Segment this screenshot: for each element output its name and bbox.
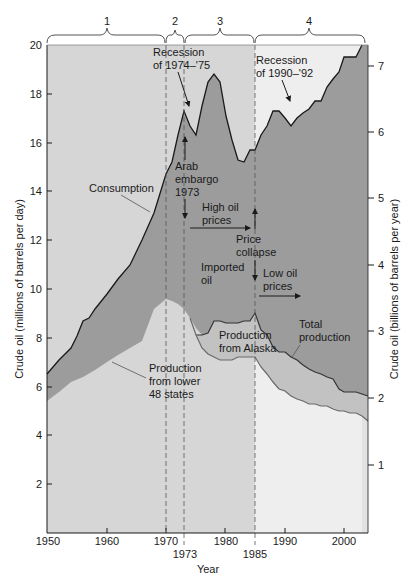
price-collapse-label-2: collapse xyxy=(236,246,276,258)
y-right-tick-7: 7 xyxy=(378,60,384,72)
y-right-tick-3: 3 xyxy=(378,325,384,337)
arab-embargo-label-3: 1973 xyxy=(175,186,199,198)
price-collapse-label: Price xyxy=(236,233,261,245)
lower48-production-label: Production xyxy=(149,362,202,374)
alaska-production-label-2: from Alaska xyxy=(219,342,277,354)
period-2-brace xyxy=(166,30,184,43)
y-right-tick-6: 6 xyxy=(378,126,384,138)
period-4-brace xyxy=(255,28,365,43)
high-oil-prices-label-2: prices xyxy=(202,214,232,226)
arab-embargo-label: Arab xyxy=(175,160,198,172)
y-tick-2: 2 xyxy=(36,478,42,490)
recession-1990-label: Recession xyxy=(256,54,307,66)
x-tick-1990: 1990 xyxy=(273,535,297,547)
x-tick-1973: 1973 xyxy=(173,548,197,560)
period-1-brace xyxy=(47,28,165,43)
y-right-tick-4: 4 xyxy=(378,259,384,271)
high-oil-prices-label: High oil xyxy=(202,201,239,213)
alaska-production-label: Production xyxy=(219,329,272,341)
total-production-label-2: production xyxy=(299,331,350,343)
y-axis-label-right: Crude oil (billions of barrels per year) xyxy=(388,199,400,379)
y-tick-20: 20 xyxy=(30,39,42,51)
period-3-label: 3 xyxy=(217,15,223,27)
period-2-label: 2 xyxy=(172,15,178,27)
x-tick-1950: 1950 xyxy=(36,535,60,547)
arab-embargo-label-2: embargo xyxy=(175,173,218,185)
recession-1974-label-2: of 1974–'75 xyxy=(153,59,210,71)
imported-oil-label-2: oil xyxy=(201,274,212,286)
y-tick-8: 8 xyxy=(36,332,42,344)
period-3-brace xyxy=(185,28,254,43)
imported-oil-label: Imported xyxy=(201,261,244,273)
period-1-label: 1 xyxy=(104,15,110,27)
y-tick-14: 14 xyxy=(30,185,42,197)
y-tick-12: 12 xyxy=(30,234,42,246)
recession-1990-label-2: of 1990–'92 xyxy=(256,67,313,79)
y-right-tick-1: 1 xyxy=(378,459,384,471)
y-axis-label-left: Crude oil (millions of barrels per day) xyxy=(13,199,25,379)
lower48-production-label-2: from lower xyxy=(149,375,201,387)
consumption-label: Consumption xyxy=(89,182,154,194)
low-oil-prices-label: Low oil xyxy=(263,267,297,279)
lower48-production-label-3: 48 states xyxy=(149,388,194,400)
total-production-label: Total xyxy=(299,318,322,330)
y-tick-18: 18 xyxy=(30,88,42,100)
y-tick-16: 16 xyxy=(30,137,42,149)
y-right-tick-5: 5 xyxy=(378,192,384,204)
low-oil-prices-label-2: prices xyxy=(263,280,293,292)
recession-1974-label: Recession xyxy=(153,46,204,58)
y-tick-4: 4 xyxy=(36,429,42,441)
x-tick-2000: 2000 xyxy=(332,535,356,547)
x-tick-1985: 1985 xyxy=(243,548,267,560)
period-4-label: 4 xyxy=(306,15,312,27)
x-tick-1970: 1970 xyxy=(154,535,178,547)
right-y-ticks xyxy=(368,66,374,465)
x-tick-1980: 1980 xyxy=(214,535,238,547)
x-axis-label: Year xyxy=(197,563,220,575)
oil-chart: 2 4 6 8 10 12 14 16 18 20 1 2 3 4 5 6 7 … xyxy=(0,0,417,583)
y-tick-6: 6 xyxy=(36,381,42,393)
y-tick-10: 10 xyxy=(30,283,42,295)
y-right-tick-2: 2 xyxy=(378,392,384,404)
x-tick-1960: 1960 xyxy=(95,535,119,547)
